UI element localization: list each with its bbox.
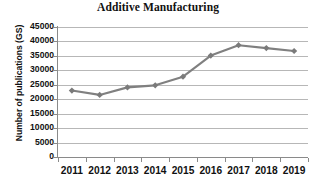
x-axis-tick-mark xyxy=(141,158,142,162)
x-axis-tick-mark xyxy=(86,158,87,162)
y-axis-tick-label: 45000 xyxy=(6,22,54,31)
x-axis-tick-label: 2019 xyxy=(277,165,311,176)
x-axis-tick-mark xyxy=(169,158,170,162)
x-axis-tick-mark xyxy=(280,158,281,162)
chart-title: Additive Manufacturing xyxy=(0,1,316,13)
x-axis-line xyxy=(57,157,308,158)
data-point-marker xyxy=(263,45,269,51)
y-axis-tick-label: 25000 xyxy=(6,80,54,89)
x-axis-tick-mark xyxy=(225,158,226,162)
y-axis-tick-label: 20000 xyxy=(6,94,54,103)
x-axis-tick-mark xyxy=(308,158,309,162)
series-marker-group xyxy=(69,42,297,98)
series-polyline xyxy=(72,45,294,95)
data-point-marker xyxy=(124,84,130,90)
data-point-marker xyxy=(152,82,158,88)
x-axis-tick-mark xyxy=(58,158,59,162)
y-axis-tick-label: 35000 xyxy=(6,51,54,60)
data-point-marker xyxy=(69,87,75,93)
y-axis-tick-label: 10000 xyxy=(6,123,54,132)
x-axis-tick-mark xyxy=(252,158,253,162)
chart-container: Additive Manufacturing Number of publica… xyxy=(0,0,316,188)
x-axis-tick-mark xyxy=(114,158,115,162)
x-axis-tick-mark xyxy=(197,158,198,162)
data-point-marker xyxy=(291,48,297,54)
y-axis-tick-label: 15000 xyxy=(6,109,54,118)
y-axis-tick-label: 40000 xyxy=(6,36,54,45)
y-axis-tick-label: 5000 xyxy=(6,138,54,147)
plot-area xyxy=(58,27,308,157)
series-line-chart xyxy=(58,27,308,157)
y-axis-tick-label: 30000 xyxy=(6,65,54,74)
data-point-marker xyxy=(97,92,103,98)
data-point-marker xyxy=(235,42,241,48)
y-axis-tick-label: 0 xyxy=(6,152,54,161)
